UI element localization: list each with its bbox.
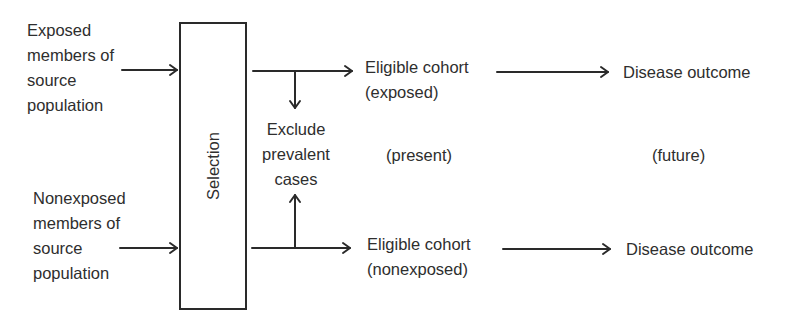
cohort-study-diagram: Exposed members of source population Non… (0, 0, 791, 335)
connector-arrows (0, 0, 791, 335)
